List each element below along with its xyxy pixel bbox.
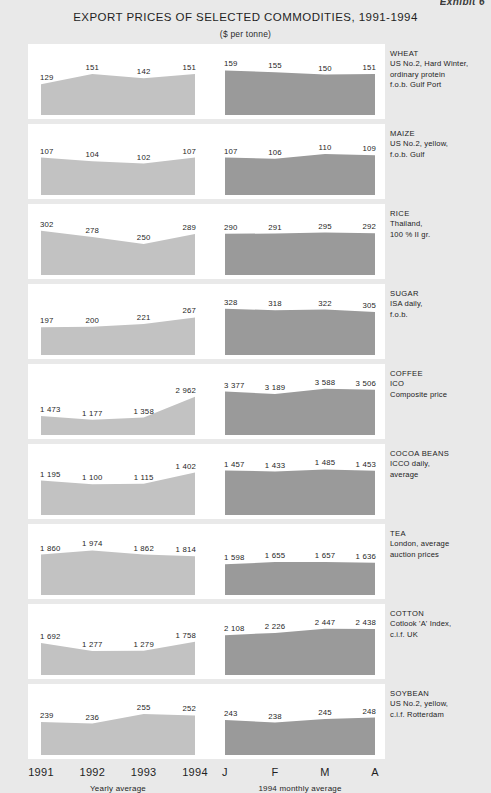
commodity-description-line: London, average [390,539,491,549]
monthly-area [225,629,375,675]
data-value-label: 200 [86,316,100,325]
data-value-label: 109 [362,144,376,153]
data-value-label: 2 108 [224,624,245,633]
commodity-description-line: Composite price [390,390,491,400]
commodity-description-line: f.o.b. Gulf Port [390,80,491,90]
monthly-series: 243238245248 [224,707,376,756]
commodity-description-line: US No.2, Hard Winter, [390,59,491,69]
data-value-label: 2 226 [265,622,286,631]
monthly-series: 1 4571 4331 4851 453 [224,458,376,515]
commodity-row: 129151142151159155150151WHEATUS No.2, Ha… [0,44,491,119]
page-title: EXPORT PRICES OF SELECTED COMMODITIES, 1… [0,0,491,23]
data-value-label: 322 [318,299,332,308]
yearly-area [41,642,195,675]
yearly-area [41,317,195,355]
data-value-label: 159 [224,59,238,68]
data-value-label: 290 [224,223,238,232]
commodity-label: TEALondon, averageauction prices [390,529,491,560]
commodity-label: COTTONCotlook 'A' Index,c.i.f. UK [390,609,491,640]
data-value-label: 328 [224,298,238,307]
data-value-label: 104 [86,150,100,159]
commodity-row: 1 8601 9741 8621 8141 5981 6551 6571 636… [0,524,491,599]
monthly-area [225,70,375,115]
data-value-label: 151 [182,63,196,72]
yearly-series: 239236255252 [40,703,196,755]
commodity-row: 302278250289290291295292RICEThailand,100… [0,204,491,279]
axis-caption-monthly: 1994 monthly average [258,784,341,793]
data-value-label: 1 862 [133,544,154,553]
monthly-area [225,718,375,756]
monthly-area [225,389,375,435]
data-value-label: 245 [318,708,332,717]
yearly-area [41,231,195,275]
data-value-label: 1 692 [40,632,61,641]
commodity-description-line: Cotlook 'A' Index, [390,619,491,629]
data-value-label: 3 377 [224,381,245,390]
data-value-label: 239 [40,711,54,720]
data-value-label: 151 [362,63,376,72]
commodity-description-line: c.i.f. UK [390,630,491,640]
axis-tick-year-1994: 1994 [182,766,208,778]
commodity-label: RICEThailand,100 % II gr. [390,209,491,240]
data-value-label: 1 358 [133,407,154,416]
yearly-series: 302278250289 [40,220,196,275]
data-value-label: 1 814 [175,545,196,554]
data-value-label: 102 [137,153,151,162]
commodity-description-line: US No.2, yellow, [390,699,491,709]
data-value-label: 1 657 [315,551,336,560]
yearly-series: 1 8601 9741 8621 814 [40,539,196,595]
data-value-label: 1 457 [224,460,245,469]
commodity-label: MAIZEUS No.2, yellow,f.o.b. Gulf [390,129,491,160]
data-value-label: 295 [318,222,332,231]
commodity-row: 1 4731 1771 3582 9623 3773 1893 5883 506… [0,364,491,439]
data-value-label: 2 438 [355,618,376,627]
data-value-label: 248 [362,707,376,716]
data-value-label: 1 655 [265,551,286,560]
data-value-label: 291 [268,223,282,232]
chart-header: EXPORT PRICES OF SELECTED COMMODITIES, 1… [0,0,491,39]
axis-tick-year-1992: 1992 [79,766,105,778]
data-value-label: 3 189 [265,383,286,392]
data-value-label: 1 433 [265,461,286,470]
monthly-series: 2 1082 2262 4472 438 [224,618,376,675]
data-value-label: 236 [86,713,100,722]
data-value-label: 2 962 [175,386,196,395]
commodity-description-line: auction prices [390,550,491,560]
data-value-label: 106 [268,148,282,157]
data-value-label: 1 636 [355,552,376,561]
yearly-area [41,397,195,435]
axis-caption-yearly: Yearly average [90,784,146,793]
monthly-series: 1 5981 6551 6571 636 [224,551,376,595]
commodity-chart-svg: 1 4731 1771 3582 9623 3773 1893 5883 506 [28,364,385,439]
data-value-label: 3 588 [315,378,336,387]
monthly-series: 159155150151 [224,59,376,115]
data-value-label: 238 [268,712,282,721]
data-value-label: 1 974 [82,539,103,548]
commodity-chart-svg: 302278250289290291295292 [28,204,385,279]
data-value-label: 151 [86,63,100,72]
monthly-area [225,154,375,195]
axis-tick-month-M: M [320,766,329,778]
commodity-name: MAIZE [390,129,491,139]
commodity-name: RICE [390,209,491,219]
data-value-label: 278 [86,226,100,235]
data-value-label: 107 [224,147,238,156]
data-value-label: 107 [182,147,196,156]
commodity-name: COCOA BEANS [390,449,491,459]
commodity-description-line: average [390,470,491,480]
axis-tick-month-F: F [271,766,278,778]
data-value-label: 255 [137,703,151,712]
data-value-label: 1 195 [40,470,61,479]
yearly-series: 1 4731 1771 3582 962 [40,386,196,435]
commodity-description-line: f.o.b. Gulf [390,150,491,160]
data-value-label: 302 [40,220,54,229]
data-value-label: 243 [224,709,238,718]
commodity-name: COTTON [390,609,491,619]
monthly-area [225,309,375,355]
data-value-label: 1 279 [133,640,154,649]
yearly-area [41,473,195,515]
commodity-name: SOYBEAN [390,689,491,699]
yearly-series: 1 6921 2771 2791 758 [40,631,196,675]
data-value-label: 2 447 [315,618,336,627]
yearly-series: 107104102107 [40,147,196,195]
